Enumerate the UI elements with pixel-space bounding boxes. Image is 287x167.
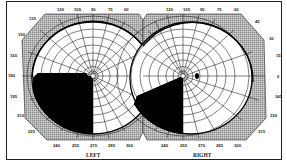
svg-text:330: 330 [270,113,278,118]
svg-text:105: 105 [74,7,82,12]
svg-text:210: 210 [17,113,25,118]
svg-text:180: 180 [8,73,16,78]
svg-text:270: 270 [198,143,206,148]
svg-text:120: 120 [166,7,174,12]
svg-text:0: 0 [277,74,280,79]
svg-text:120: 120 [57,7,65,12]
svg-text:300: 300 [126,143,134,148]
svg-text:60: 60 [234,7,239,12]
svg-text:60: 60 [124,7,129,12]
svg-text:90: 90 [200,7,205,12]
svg-text:195: 195 [10,94,18,99]
svg-text:345: 345 [275,94,283,99]
svg-text:240: 240 [53,143,61,148]
svg-text:75: 75 [217,7,222,12]
svg-text:270: 270 [90,143,98,148]
visual-field-chart: 120 105 90 75 60 135 150 165 180 195 210… [0,0,287,167]
svg-text:135: 135 [29,16,37,21]
svg-text:15: 15 [276,53,281,58]
svg-text:45: 45 [255,19,260,24]
svg-text:240: 240 [161,143,169,148]
svg-text:300: 300 [234,143,242,148]
svg-text:315: 315 [258,129,266,134]
svg-text:255: 255 [72,143,80,148]
svg-text:90: 90 [91,7,96,12]
right-blind-spot [195,73,199,79]
svg-text:255: 255 [180,143,188,148]
svg-text:285: 285 [108,143,116,148]
right-eye-label: RIGHT [193,152,212,158]
svg-text:165: 165 [10,53,18,58]
svg-text:285: 285 [216,143,224,148]
svg-text:225: 225 [28,129,36,134]
svg-text:75: 75 [108,7,113,12]
left-eye-label: LEFT [86,152,101,158]
svg-text:105: 105 [183,7,191,12]
svg-text:30: 30 [269,36,274,41]
svg-text:150: 150 [18,32,26,37]
